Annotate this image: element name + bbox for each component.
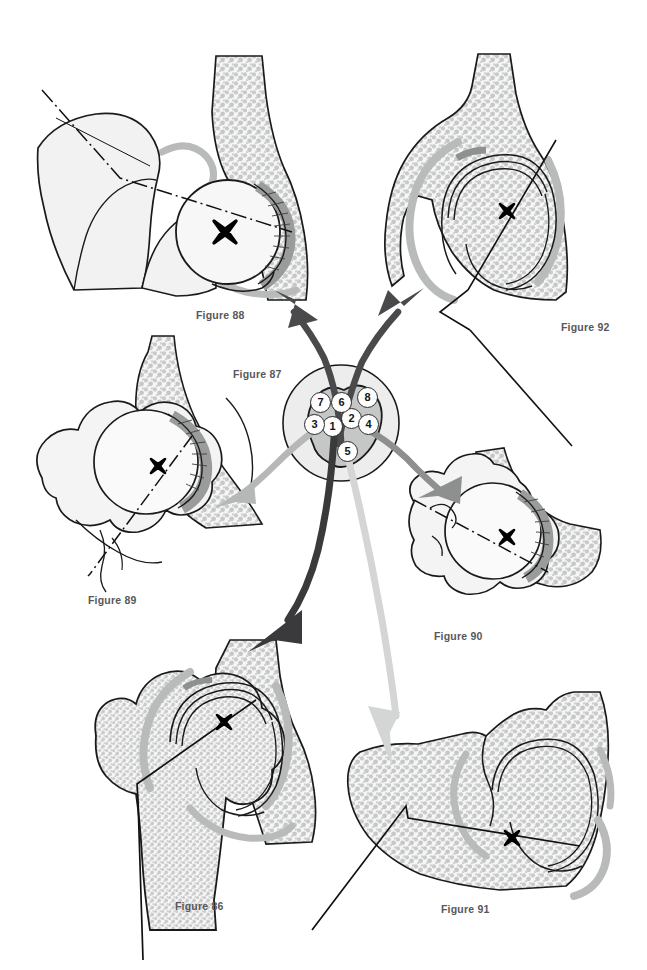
figure-89-illustration [37,336,262,592]
hub-number-7[interactable]: 7 [310,392,331,413]
hub-number-5[interactable]: 5 [337,441,358,462]
hub-number-6[interactable]: 6 [331,392,352,413]
hub-number-3[interactable]: 3 [304,414,325,435]
arrow-hub-to-fig91 [349,462,400,766]
hub-number-8[interactable]: 8 [357,387,378,408]
hub-number-1[interactable]: 1 [322,416,343,437]
figure-89-label: Figure 89 [88,594,136,606]
figure-92-label: Figure 92 [561,321,609,333]
figure-90-label: Figure 90 [434,630,482,642]
figure-88-illustration [38,56,308,300]
figure-91-label: Figure 91 [441,903,489,915]
figure-86-label: Figure 86 [175,900,223,912]
figure-88-label: Figure 88 [196,309,244,321]
figure-plate: 1 2 3 4 5 6 7 8 Figure 87 Figure 88 Figu… [0,0,647,970]
figure-92-illustration [385,54,572,446]
figure-90-illustration [409,448,601,594]
figure-86-illustration [95,640,315,960]
anatomy-illustration-canvas [0,0,647,970]
figure-91-illustration [312,692,611,930]
hub-number-4[interactable]: 4 [358,414,379,435]
figure-87-label: Figure 87 [233,368,281,380]
